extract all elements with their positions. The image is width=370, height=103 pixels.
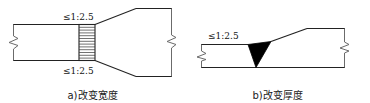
figure-root: ≤1:2.5 ≤1:2.5 a)改变宽度	[0, 0, 370, 103]
ratio-label-bottom-a: ≤1:2.5	[63, 66, 94, 76]
ratio-label-top-b: ≤1:2.5	[208, 31, 239, 41]
break-symbol-right-icon	[340, 42, 349, 53]
thick-plate-outline	[307, 29, 345, 68]
taper-transition	[95, 9, 136, 77]
break-symbol-right-icon	[167, 35, 176, 48]
narrow-plate-outline	[13, 25, 79, 61]
weld-seam-hatch	[79, 25, 95, 61]
weld-triangle-fill	[248, 42, 271, 68]
caption-b: b)改变厚度	[185, 90, 370, 102]
diagram-a-drawing: ≤1:2.5 ≤1:2.5	[0, 0, 185, 103]
caption-a: a)改变宽度	[0, 90, 185, 102]
diagram-b-drawing: ≤1:2.5	[185, 0, 370, 103]
thin-plate-outline	[201, 45, 248, 68]
diagram-panel-b: ≤1:2.5 b)改变厚度	[185, 0, 370, 103]
taper-slope	[271, 29, 307, 42]
wide-plate-outline	[136, 9, 172, 77]
break-symbol-left-icon	[197, 51, 206, 61]
break-symbol-left-icon	[9, 36, 18, 49]
ratio-label-top-a: ≤1:2.5	[63, 12, 94, 22]
diagram-panel-a: ≤1:2.5 ≤1:2.5 a)改变宽度	[0, 0, 185, 103]
